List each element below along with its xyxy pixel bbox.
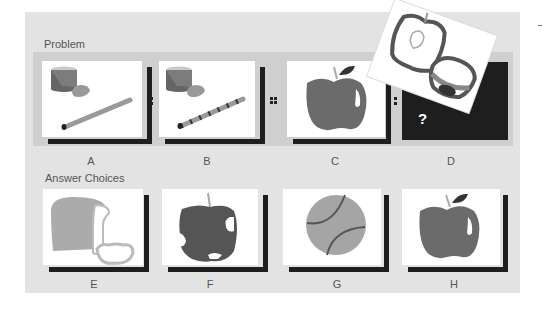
frame-a [42,61,148,144]
tennis-ball-icon [283,189,381,265]
label-f: F [200,278,220,290]
can-clay-straw-icon [42,61,142,137]
choice-f[interactable] [162,189,268,272]
choice-e[interactable] [43,189,149,272]
edge-mark [538,25,542,26]
can-clay-striped-straw-icon [159,61,255,137]
label-e: E [84,278,104,290]
choice-g[interactable] [283,189,389,272]
bitten-apple-icon [162,189,258,265]
bread-icon [43,189,143,265]
question-mark: ? [418,110,427,127]
frame-b [159,61,265,144]
answer-choices-heading: Answer Choices [45,172,124,184]
apple-icon [402,189,500,265]
label-b: B [197,155,217,167]
label-h: H [444,278,464,290]
label-c: C [325,155,345,167]
label-d: D [441,155,461,167]
choice-h[interactable] [402,189,508,272]
problem-heading: Problem [44,38,85,50]
label-a: A [81,155,101,167]
label-g: G [327,278,347,290]
